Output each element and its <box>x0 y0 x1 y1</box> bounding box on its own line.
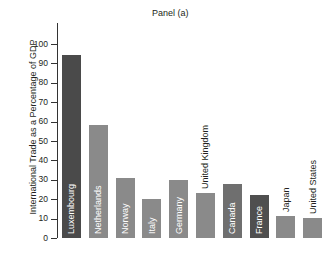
bar-label: United Kingdom <box>201 125 210 189</box>
y-tick-label-20: 20 <box>39 195 48 204</box>
bar-united-kingdom[interactable]: United Kingdom <box>196 24 215 238</box>
bar-norway[interactable]: Norway <box>116 24 135 238</box>
y-tick-label-80: 80 <box>39 78 48 87</box>
bar-rect <box>303 218 322 238</box>
bar-label: Netherlands <box>94 185 103 234</box>
bar-germany[interactable]: Germany <box>169 24 188 238</box>
bar-canada[interactable]: Canada <box>223 24 242 238</box>
y-tick-label-50: 50 <box>39 137 48 146</box>
bar-label: Norway <box>121 203 130 234</box>
y-tick-100 <box>51 44 57 45</box>
bar-label: Germany <box>174 197 183 234</box>
y-tick-10 <box>51 219 57 220</box>
y-tick-60 <box>51 122 57 123</box>
y-axis-title: International Trade as a Percentage of G… <box>28 22 38 232</box>
bar-rect <box>196 193 215 238</box>
y-tick-0 <box>51 238 57 239</box>
bar-italy[interactable]: Italy <box>142 24 161 238</box>
y-tick-80 <box>51 83 57 84</box>
bar-france[interactable]: France <box>250 24 269 238</box>
bar-luxembourg[interactable]: Luxembourg <box>62 24 81 238</box>
y-tick-label-90: 90 <box>39 59 48 68</box>
bar-netherlands[interactable]: Netherlands <box>89 24 108 238</box>
y-tick-label-100: 100 <box>34 40 48 49</box>
bar-rect <box>276 216 295 238</box>
bar-label: Japan <box>281 187 290 212</box>
y-tick-90 <box>51 63 57 64</box>
chart-figure: Panel (a) International Trade as a Perce… <box>0 0 333 265</box>
bar-label: Luxembourg <box>67 184 76 234</box>
chart-title: Panel (a) <box>152 8 189 18</box>
bar-label: Italy <box>147 217 156 234</box>
bar-united-states[interactable]: United States <box>303 24 322 238</box>
y-tick-label-40: 40 <box>39 156 48 165</box>
y-tick-30 <box>51 180 57 181</box>
y-tick-label-30: 30 <box>39 175 48 184</box>
y-tick-label-10: 10 <box>39 214 48 223</box>
y-tick-70 <box>51 102 57 103</box>
y-tick-40 <box>51 160 57 161</box>
bar-label: United States <box>308 160 317 214</box>
bar-label: France <box>255 206 264 234</box>
y-tick-label-60: 60 <box>39 117 48 126</box>
y-tick-50 <box>51 141 57 142</box>
y-tick-20 <box>51 199 57 200</box>
plot-area: LuxembourgNetherlandsNorwayItalyGermanyU… <box>58 24 326 238</box>
y-tick-label-70: 70 <box>39 98 48 107</box>
y-tick-label-0: 0 <box>43 234 48 243</box>
bar-label: Canada <box>228 202 237 234</box>
bar-japan[interactable]: Japan <box>276 24 295 238</box>
